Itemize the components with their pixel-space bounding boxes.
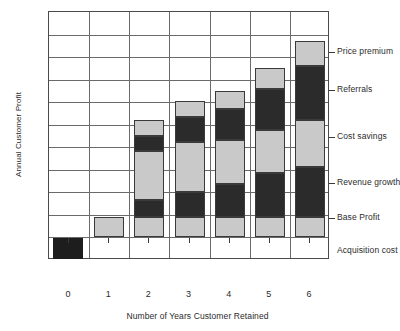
bar-segment [295,167,325,217]
bar-segment [255,68,285,89]
bar-segment [175,217,205,238]
stacked-bar [134,120,164,238]
segment-label: Base Profit [337,212,380,222]
bar-segment [134,151,164,201]
bar-segment [134,136,164,150]
segment-label: Revenue growth [337,177,400,187]
segment-label: Cost savings [337,131,387,141]
segment-label: Acquisition cost [337,245,398,255]
bar-segment [134,200,164,217]
x-axis-tick [108,238,109,243]
bar-segment [255,89,285,130]
gridline-vertical [129,12,130,258]
bar-segment [295,66,325,120]
gridline-vertical [169,12,170,258]
y-axis-title: Annual Customer Profit [14,65,23,205]
stacked-bar [94,217,124,238]
segment-label: Price premium [337,46,393,56]
bar-segment [215,91,245,110]
x-axis-tick [229,238,230,243]
gridline-vertical [250,12,251,258]
bar-segment [295,120,325,168]
bar-segment [295,217,325,238]
x-axis-tick [269,238,270,243]
bar-segment [215,109,245,140]
stacked-bar [255,68,285,237]
segment-label-tick [329,90,335,91]
bar-segment [215,217,245,238]
gridline-horizontal [49,80,328,81]
gridline-horizontal [49,35,328,36]
bar-segment [175,142,205,192]
x-axis-tick-label: 5 [259,289,279,299]
segment-label: Referrals [337,84,372,94]
x-axis-tick-label: 1 [98,289,118,299]
x-axis-tick [189,238,190,243]
gridline-vertical [290,12,291,258]
segment-label-tick [329,52,335,53]
segment-label-tick [329,218,335,219]
x-axis-tick-label: 0 [58,289,78,299]
bar-segment [255,130,285,173]
bar-segment [134,120,164,137]
stacked-bar [215,91,245,238]
x-axis-tick-label: 2 [138,289,158,299]
x-axis-tick [68,238,69,243]
x-axis-tick [148,238,149,243]
gridline-horizontal [49,57,328,58]
bar-segment [175,117,205,142]
segment-label-tick [329,183,335,184]
bar-segment [175,192,205,217]
bar-segment [255,173,285,216]
x-axis-title: Number of Years Customer Retained [0,311,395,321]
gridline-vertical [210,12,211,258]
x-axis-tick-label: 6 [299,289,319,299]
bar-segment [215,184,245,217]
x-axis-tick-label: 4 [219,289,239,299]
x-axis-tick [309,238,310,243]
stacked-bar [295,41,325,237]
segment-label-tick [329,137,335,138]
x-axis-tick-label: 3 [179,289,199,299]
stacked-bar [175,101,205,237]
bar-segment [175,101,205,118]
bar-segment [94,217,124,238]
bar-segment [134,217,164,238]
gridline-vertical [89,12,90,258]
bar-segment [255,217,285,238]
bar-segment [295,41,325,66]
bar-segment [215,140,245,183]
plot-area [48,11,329,259]
